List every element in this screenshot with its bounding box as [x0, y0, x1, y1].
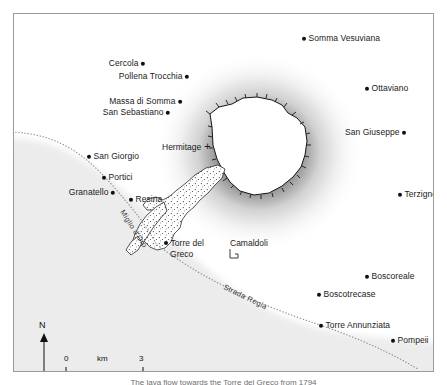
place-label[interactable]: Granatello: [69, 187, 115, 198]
place-dot-icon: [87, 154, 91, 158]
figure-caption: The lava flow towards the Torre del Grec…: [0, 377, 447, 385]
scale-unit-label: km: [97, 354, 108, 363]
place-dot-icon: [365, 274, 369, 278]
place-label[interactable]: San Giorgio: [87, 151, 139, 162]
place-dot-icon: [398, 192, 402, 196]
place-label[interactable]: Torre Annunziata: [319, 320, 390, 331]
place-dot-icon: [317, 292, 321, 296]
place-dot-icon: [391, 338, 395, 342]
place-dot-icon: [102, 175, 106, 179]
place-dot-icon: [166, 110, 170, 114]
monastery-glyph-icon: [229, 248, 241, 260]
place-dot-icon: [302, 36, 306, 40]
place-dot-icon: [178, 99, 182, 103]
place-label[interactable]: Somma Vesuviana: [302, 33, 380, 44]
scale-min-label: 0: [64, 354, 68, 363]
scale-bar: 0 km 3: [64, 354, 156, 372]
place-label[interactable]: Boscotrecase: [317, 289, 376, 300]
place-label[interactable]: Resina: [129, 194, 162, 205]
place-dot-icon: [319, 323, 323, 327]
place-dot-icon: [185, 74, 189, 78]
north-label: N: [39, 320, 46, 330]
map-canvas: Somma Vesuviana Cercola Pollena Trocchia…: [14, 14, 433, 371]
map-frame: Somma Vesuviana Cercola Pollena Trocchia…: [13, 13, 434, 372]
cross-icon: +: [204, 140, 210, 152]
place-label[interactable]: Massa di Somma: [109, 96, 182, 107]
place-label[interactable]: Portici: [102, 172, 132, 183]
camaldoli-label[interactable]: Camaldoli: [230, 238, 268, 248]
place-label-torre-del-greco[interactable]: Torre del Greco: [164, 237, 210, 259]
vesuvius-map-figure: Somma Vesuviana Cercola Pollena Trocchia…: [0, 0, 447, 385]
scale-max-label: 3: [139, 354, 143, 363]
place-dot-icon: [111, 190, 115, 194]
place-label[interactable]: Pompeii: [391, 335, 429, 346]
place-label[interactable]: Pollena Trocchia: [119, 71, 189, 82]
place-label[interactable]: San Giuseppe: [345, 127, 406, 138]
place-dot-icon: [164, 241, 168, 245]
place-label[interactable]: San Sebastiano: [103, 107, 170, 118]
hermitage-label[interactable]: Hermitage+: [162, 140, 211, 152]
place-dot-icon: [141, 61, 145, 65]
place-label[interactable]: Ottaviano: [365, 83, 408, 94]
place-label[interactable]: Cercola: [109, 58, 145, 69]
place-label[interactable]: Boscoreale: [365, 271, 415, 282]
place-dot-icon: [365, 86, 369, 90]
scale-bar-rule: [65, 366, 157, 372]
place-dot-icon: [402, 130, 406, 134]
north-arrow: N: [39, 320, 61, 372]
place-dot-icon: [129, 197, 133, 201]
place-label[interactable]: Terzigno: [398, 189, 434, 200]
